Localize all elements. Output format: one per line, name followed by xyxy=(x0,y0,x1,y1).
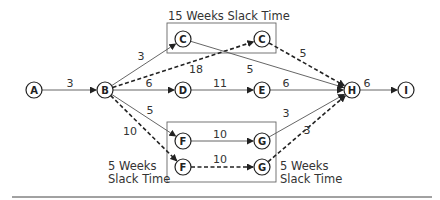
edge-label-c1-h: 5 xyxy=(247,63,254,76)
edge-b-f1 xyxy=(112,94,176,136)
edge-label-b-c1: 3 xyxy=(138,50,145,63)
edge-label-a-b: 3 xyxy=(67,77,74,90)
node-c1: C xyxy=(175,31,191,47)
edge-label-b-c2: 18 xyxy=(189,63,203,76)
slack-note-left-line1: 5 Weeks xyxy=(108,159,156,173)
node-label: G xyxy=(258,136,266,147)
edges xyxy=(42,41,397,167)
node-label: F xyxy=(180,162,187,173)
node-a: A xyxy=(26,82,42,98)
node-f1: F xyxy=(175,133,191,149)
edge-c2-h xyxy=(269,43,344,86)
slack-note-right-line2: Slack Time xyxy=(280,172,342,186)
slack-note-left-line2: Slack Time xyxy=(108,172,170,186)
node-label: B xyxy=(101,85,109,96)
node-label: F xyxy=(180,136,187,147)
edge-label-f1-g1: 10 xyxy=(213,128,227,141)
node-f2: F xyxy=(175,159,191,175)
edge-label-b-d: 6 xyxy=(146,77,153,90)
node-label: C xyxy=(258,34,265,45)
edge-label-d-e: 11 xyxy=(213,77,227,90)
node-i: I xyxy=(398,82,414,98)
edge-label-f2-g2: 10 xyxy=(213,153,227,166)
slack-note-right-line1: 5 Weeks xyxy=(280,159,328,173)
edge-label-e-h: 6 xyxy=(283,77,290,90)
node-label: G xyxy=(258,162,266,173)
node-e: E xyxy=(254,82,270,98)
node-label: I xyxy=(404,85,408,96)
edge-label-h-i: 6 xyxy=(364,77,371,90)
node-label: E xyxy=(259,85,266,96)
edge-label-g1-h: 3 xyxy=(283,107,290,120)
edge-label-g2-h: 3 xyxy=(304,124,311,137)
slack-note-top: 15 Weeks Slack Time xyxy=(168,9,290,23)
edge-label-c2-h: 5 xyxy=(300,47,307,60)
network-diagram: 3 3 18 6 5 10 5 5 11 6 10 10 3 3 6 ABCCD… xyxy=(0,0,440,200)
node-label: D xyxy=(179,85,187,96)
edge-b-c2 xyxy=(113,42,254,88)
node-h: H xyxy=(344,82,360,98)
edge-label-b-f2: 10 xyxy=(123,125,137,138)
node-c2: C xyxy=(254,31,270,47)
edge-labels: 3 3 18 6 5 10 5 5 11 6 10 10 3 3 6 xyxy=(67,47,371,166)
node-b: B xyxy=(97,82,113,98)
node-g2: G xyxy=(254,159,270,175)
node-g1: G xyxy=(254,133,270,149)
node-label: H xyxy=(348,85,356,96)
node-label: A xyxy=(30,85,38,96)
edge-label-b-f1: 5 xyxy=(147,104,154,117)
node-d: D xyxy=(175,82,191,98)
node-label: C xyxy=(179,34,186,45)
